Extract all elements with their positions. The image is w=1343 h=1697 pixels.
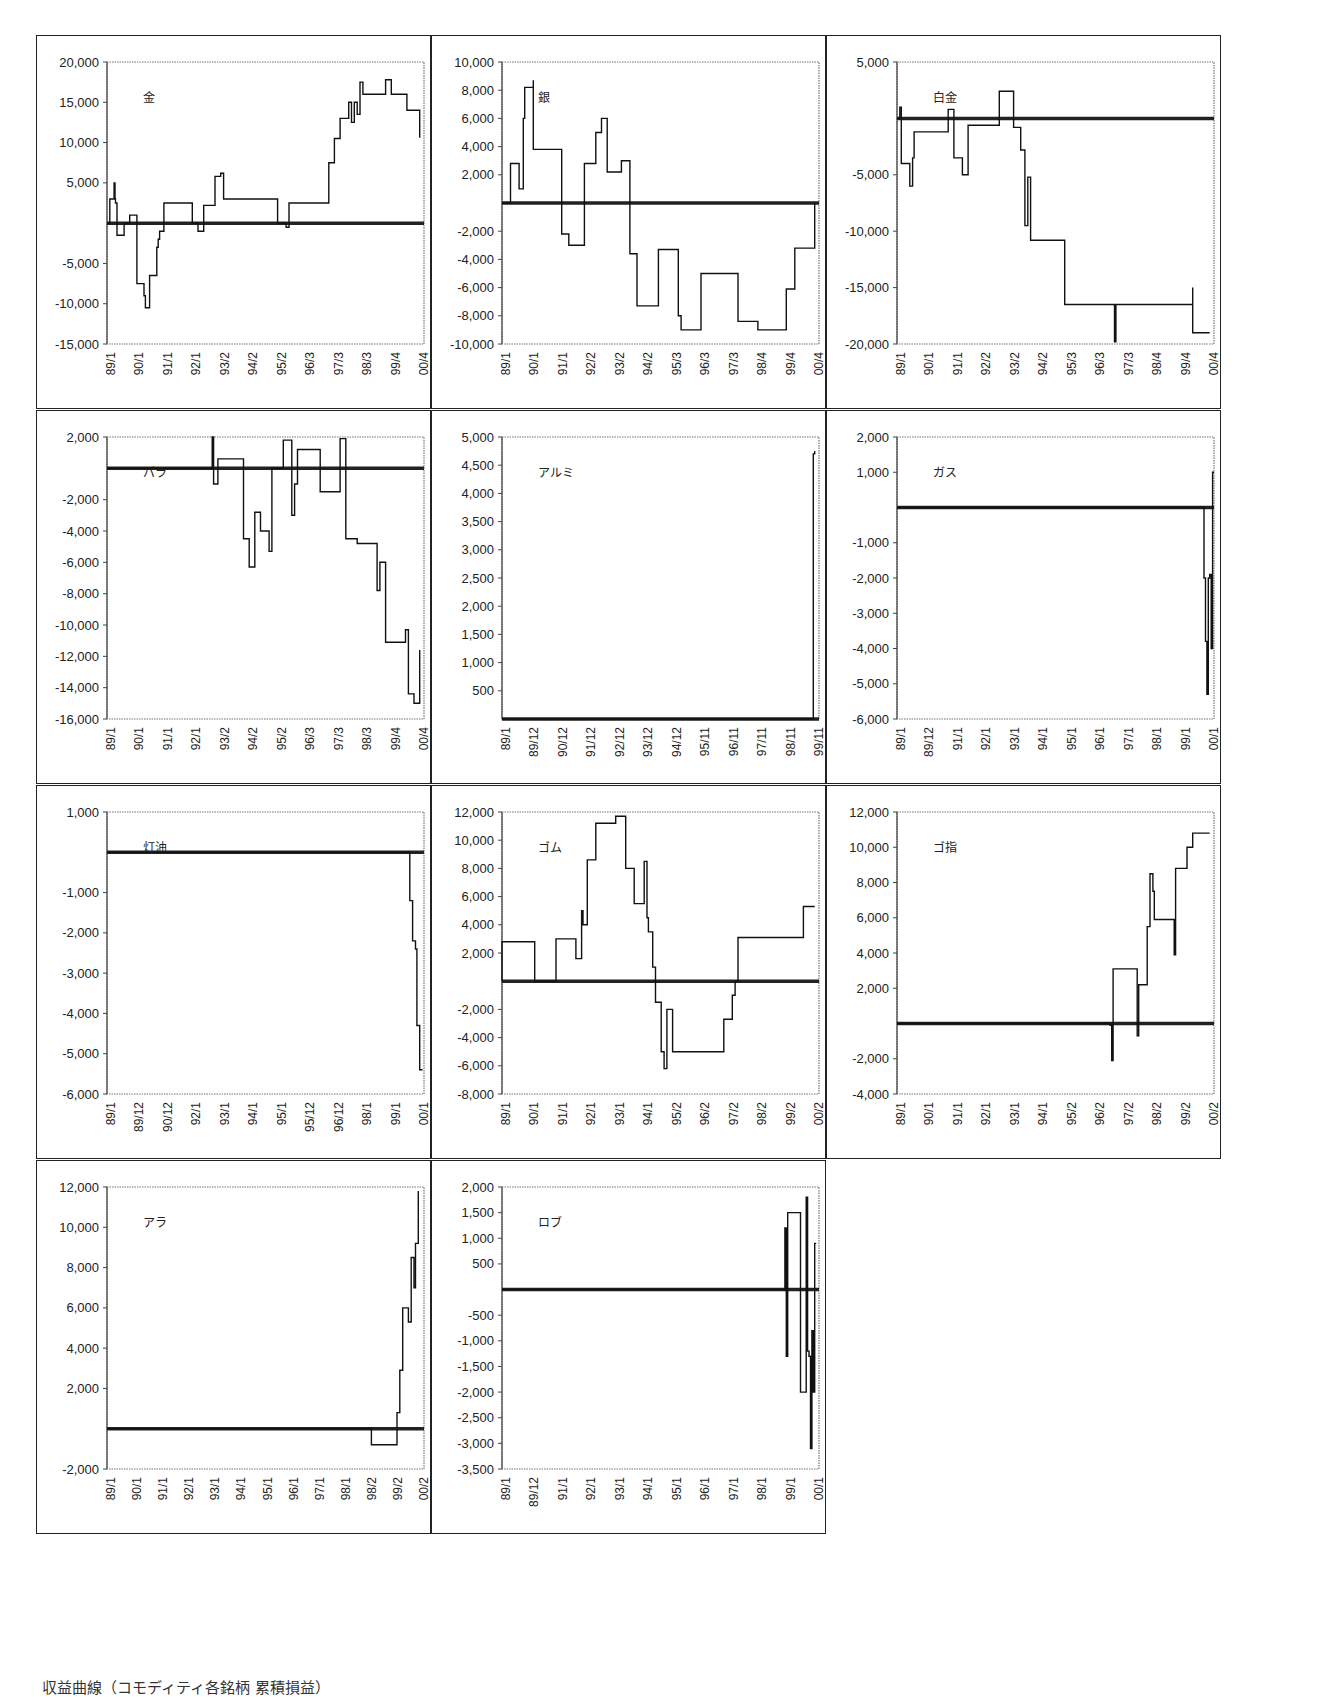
svg-text:92/1: 92/1 bbox=[979, 1102, 993, 1126]
chart-panel: 2,0001,000-1,000-2,000-3,000-4,000-5,000… bbox=[826, 410, 1221, 784]
svg-text:-5,000: -5,000 bbox=[62, 256, 99, 271]
svg-text:89/12: 89/12 bbox=[132, 1102, 146, 1132]
svg-text:8,000: 8,000 bbox=[461, 83, 494, 98]
line-chart: 2,000-2,000-4,000-6,000-8,000-10,000-12,… bbox=[37, 411, 432, 785]
svg-text:94/1: 94/1 bbox=[641, 1477, 655, 1501]
svg-text:3,000: 3,000 bbox=[461, 542, 494, 557]
svg-text:-2,500: -2,500 bbox=[457, 1410, 494, 1425]
svg-text:89/1: 89/1 bbox=[894, 1102, 908, 1126]
svg-text:89/1: 89/1 bbox=[104, 352, 118, 376]
svg-text:97/3: 97/3 bbox=[727, 352, 741, 376]
svg-text:93/2: 93/2 bbox=[613, 352, 627, 376]
svg-text:98/4: 98/4 bbox=[755, 352, 769, 376]
svg-text:93/1: 93/1 bbox=[218, 1102, 232, 1126]
series-label: アルミ bbox=[538, 466, 574, 480]
svg-text:6,000: 6,000 bbox=[461, 889, 494, 904]
svg-text:96/3: 96/3 bbox=[1093, 352, 1107, 376]
svg-text:92/1: 92/1 bbox=[189, 1102, 203, 1126]
svg-text:00/4: 00/4 bbox=[812, 352, 826, 376]
svg-text:6,000: 6,000 bbox=[66, 1300, 99, 1315]
svg-text:91/1: 91/1 bbox=[556, 1477, 570, 1501]
svg-text:10,000: 10,000 bbox=[59, 135, 99, 150]
svg-text:3,500: 3,500 bbox=[461, 514, 494, 529]
svg-text:12,000: 12,000 bbox=[59, 1180, 99, 1195]
svg-text:90/12: 90/12 bbox=[556, 727, 570, 757]
svg-text:-4,000: -4,000 bbox=[852, 1087, 889, 1102]
series-label: ゴム bbox=[538, 840, 562, 855]
svg-text:1,000: 1,000 bbox=[66, 805, 99, 820]
svg-text:98/2: 98/2 bbox=[755, 1102, 769, 1126]
svg-text:4,500: 4,500 bbox=[461, 458, 494, 473]
line-chart: 12,00010,0008,0006,0004,0002,000-2,000-4… bbox=[432, 786, 827, 1160]
svg-text:95/1: 95/1 bbox=[1065, 727, 1079, 751]
svg-text:-10,000: -10,000 bbox=[845, 224, 889, 239]
figure-caption: 収益曲線（コモディティ各銘柄 累積損益） bbox=[42, 1676, 330, 1697]
svg-text:00/1: 00/1 bbox=[1207, 727, 1221, 751]
svg-text:95/3: 95/3 bbox=[1065, 352, 1079, 376]
svg-text:99/2: 99/2 bbox=[784, 1102, 798, 1126]
svg-text:93/2: 93/2 bbox=[1008, 352, 1022, 376]
svg-text:98/3: 98/3 bbox=[360, 727, 374, 751]
svg-text:98/4: 98/4 bbox=[1150, 352, 1164, 376]
svg-text:20,000: 20,000 bbox=[59, 55, 99, 70]
svg-text:4,000: 4,000 bbox=[856, 946, 889, 961]
svg-text:89/1: 89/1 bbox=[894, 352, 908, 376]
svg-text:92/1: 92/1 bbox=[584, 1102, 598, 1126]
svg-text:92/1: 92/1 bbox=[189, 352, 203, 376]
svg-text:93/1: 93/1 bbox=[1008, 1102, 1022, 1126]
svg-text:-15,000: -15,000 bbox=[845, 280, 889, 295]
svg-text:-2,000: -2,000 bbox=[62, 1462, 99, 1477]
svg-text:98/1: 98/1 bbox=[339, 1477, 353, 1501]
line-chart: 12,00010,0008,0006,0004,0002,000-2,000-4… bbox=[827, 786, 1222, 1160]
svg-text:97/1: 97/1 bbox=[313, 1477, 327, 1501]
svg-text:-8,000: -8,000 bbox=[457, 1087, 494, 1102]
svg-text:99/11: 99/11 bbox=[812, 727, 826, 756]
svg-text:10,000: 10,000 bbox=[59, 1220, 99, 1235]
svg-text:99/4: 99/4 bbox=[389, 352, 403, 376]
svg-text:-16,000: -16,000 bbox=[55, 712, 99, 727]
svg-text:-4,000: -4,000 bbox=[457, 1030, 494, 1045]
svg-text:-2,000: -2,000 bbox=[852, 571, 889, 586]
svg-text:8,000: 8,000 bbox=[66, 1260, 99, 1275]
svg-text:99/4: 99/4 bbox=[784, 352, 798, 376]
svg-text:94/1: 94/1 bbox=[1036, 727, 1050, 751]
svg-text:96/2: 96/2 bbox=[698, 1102, 712, 1126]
chart-panel: 12,00010,0008,0006,0004,0002,000-2,000-4… bbox=[431, 785, 826, 1159]
line-chart: 10,0008,0006,0004,0002,000-2,000-4,000-6… bbox=[432, 36, 827, 410]
line-chart: 20,00015,00010,0005,000-5,000-10,000-15,… bbox=[37, 36, 432, 410]
svg-text:97/3: 97/3 bbox=[1122, 352, 1136, 376]
svg-text:96/1: 96/1 bbox=[287, 1477, 301, 1501]
svg-text:-6,000: -6,000 bbox=[852, 712, 889, 727]
svg-text:96/3: 96/3 bbox=[303, 352, 317, 376]
svg-text:00/1: 00/1 bbox=[417, 1102, 431, 1126]
svg-text:91/12: 91/12 bbox=[584, 727, 598, 757]
svg-text:92/1: 92/1 bbox=[182, 1477, 196, 1501]
svg-text:98/1: 98/1 bbox=[360, 1102, 374, 1126]
line-chart: 2,0001,000-1,000-2,000-3,000-4,000-5,000… bbox=[827, 411, 1222, 785]
svg-text:-8,000: -8,000 bbox=[62, 586, 99, 601]
svg-text:94/2: 94/2 bbox=[246, 352, 260, 376]
chart-panel: 1,000-1,000-2,000-3,000-4,000-5,000-6,00… bbox=[36, 785, 431, 1159]
svg-text:-20,000: -20,000 bbox=[845, 337, 889, 352]
svg-text:-15,000: -15,000 bbox=[55, 337, 99, 352]
svg-text:93/1: 93/1 bbox=[1008, 727, 1022, 751]
svg-text:89/1: 89/1 bbox=[894, 727, 908, 751]
svg-text:91/1: 91/1 bbox=[161, 352, 175, 376]
svg-text:00/4: 00/4 bbox=[1207, 352, 1221, 376]
svg-text:-2,000: -2,000 bbox=[62, 492, 99, 507]
svg-text:-3,000: -3,000 bbox=[62, 966, 99, 981]
svg-text:-3,000: -3,000 bbox=[852, 606, 889, 621]
svg-text:91/1: 91/1 bbox=[156, 1477, 170, 1501]
svg-text:95/12: 95/12 bbox=[303, 1102, 317, 1132]
svg-text:-6,000: -6,000 bbox=[457, 280, 494, 295]
svg-text:89/1: 89/1 bbox=[104, 1477, 118, 1501]
svg-text:93/12: 93/12 bbox=[641, 727, 655, 757]
svg-text:-2,000: -2,000 bbox=[457, 224, 494, 239]
svg-text:89/1: 89/1 bbox=[104, 727, 118, 751]
svg-text:99/1: 99/1 bbox=[1179, 727, 1193, 751]
svg-text:91/1: 91/1 bbox=[556, 1102, 570, 1126]
svg-text:97/3: 97/3 bbox=[332, 352, 346, 376]
svg-text:89/1: 89/1 bbox=[499, 352, 513, 376]
svg-text:500: 500 bbox=[472, 1256, 494, 1271]
svg-text:6,000: 6,000 bbox=[461, 111, 494, 126]
